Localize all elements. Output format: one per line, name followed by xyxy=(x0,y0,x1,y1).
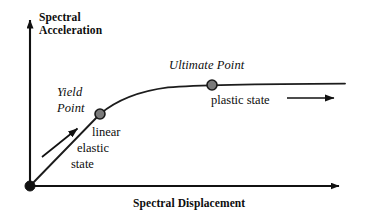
elastic-word: elastic xyxy=(77,140,120,156)
yield-point-label-line1: Yield xyxy=(57,85,82,99)
origin-marker xyxy=(25,181,35,191)
linear-word: linear xyxy=(92,125,120,139)
x-axis-title: Spectral Displacement xyxy=(133,197,245,210)
capacity-curve-figure: Spectral Acceleration Spectral Displacem… xyxy=(0,0,372,220)
yield-point-marker xyxy=(95,109,105,119)
plastic-state-label: plastic state xyxy=(211,93,270,107)
state-word: state xyxy=(71,156,120,172)
yield-point-label: Yield Point xyxy=(57,85,85,116)
y-axis-title-line2: Acceleration xyxy=(39,24,102,36)
ultimate-point-marker xyxy=(207,80,217,90)
linear-elastic-state-label: linear elastic state xyxy=(92,124,120,172)
y-axis-title-line1: Spectral xyxy=(39,11,81,23)
yield-point-label-line2: Point xyxy=(57,101,85,115)
ultimate-point-label: Ultimate Point xyxy=(169,58,244,72)
y-axis-title: Spectral Acceleration xyxy=(39,11,102,37)
